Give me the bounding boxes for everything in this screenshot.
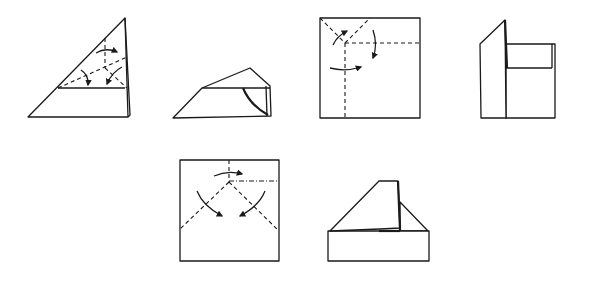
step-5-square <box>180 160 279 261</box>
step-1-triangle <box>28 18 130 117</box>
step-6-house <box>328 181 429 261</box>
origami-diagram <box>0 0 596 293</box>
step-2-folded-shape <box>173 68 271 118</box>
step-3-square <box>320 18 420 118</box>
step-4-flap <box>480 20 555 118</box>
